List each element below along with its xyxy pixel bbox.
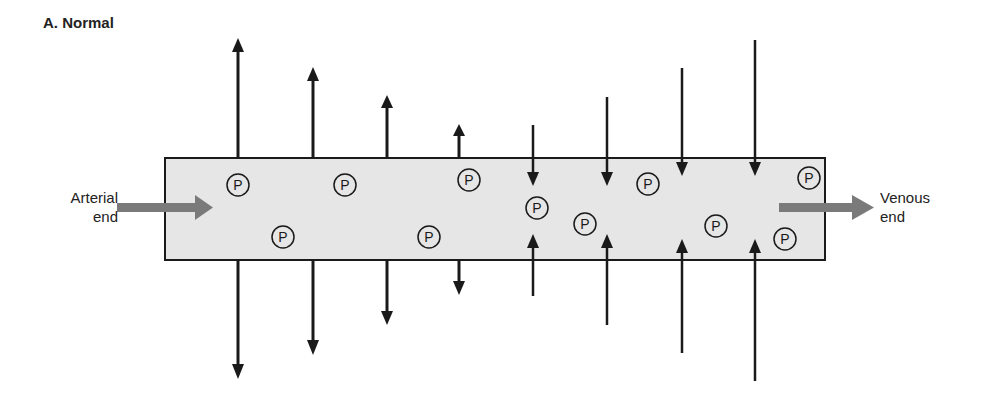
filtration-arrows-top (232, 38, 465, 158)
capillary-diagram: P P P P P P P P P P P (0, 0, 990, 395)
protein-label: P (711, 218, 720, 234)
protein-label: P (780, 231, 789, 247)
protein-label: P (580, 216, 589, 232)
protein-label: P (464, 172, 473, 188)
protein-label: P (643, 176, 652, 192)
filtration-arrows-bottom (232, 260, 465, 379)
protein-label: P (424, 229, 433, 245)
protein-label: P (278, 229, 287, 245)
protein-label: P (233, 177, 242, 193)
capillary-vessel (165, 158, 825, 260)
protein-label: P (340, 177, 349, 193)
protein-label: P (804, 170, 813, 186)
protein-label: P (532, 200, 541, 216)
